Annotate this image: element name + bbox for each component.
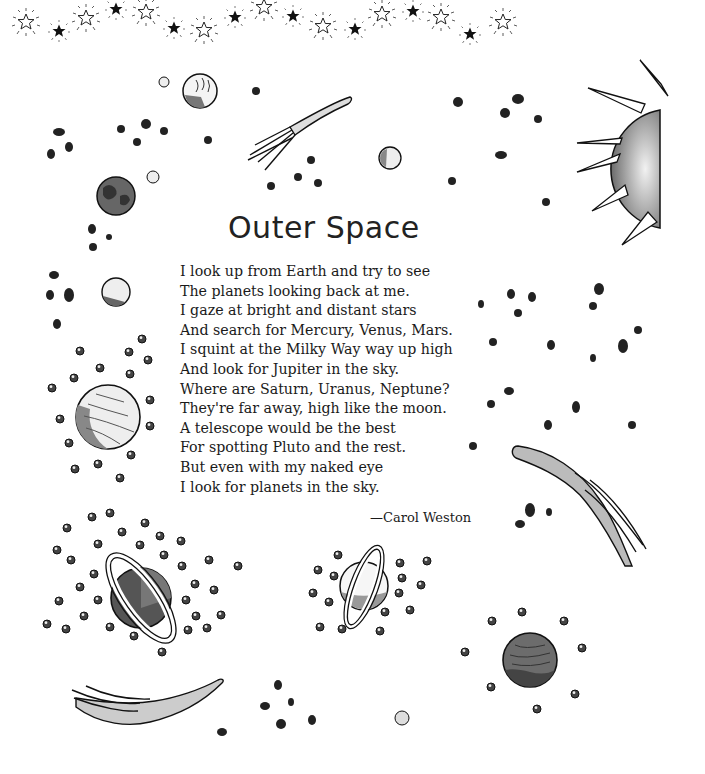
poem-line: They're far away, high like the moon. — [180, 399, 453, 419]
sun-icon — [577, 60, 668, 245]
saturn-icon — [93, 543, 188, 654]
poem-line: I squint at the Milky Way way up high — [180, 340, 453, 360]
poem-line: And look for Jupiter in the sky. — [180, 360, 453, 380]
uranus-icon — [336, 541, 392, 633]
poem-line: And search for Mercury, Venus, Mars. — [180, 321, 453, 341]
poem-body: I look up from Earth and try to see The … — [180, 262, 453, 497]
poem-line: I look for planets in the sky. — [180, 478, 453, 498]
poem-line: A telescope would be the best — [180, 419, 453, 439]
poem-line: But even with my naked eye — [180, 458, 453, 478]
poem-line: The planets looking back at me. — [180, 282, 453, 302]
poem-line: I look up from Earth and try to see — [180, 262, 453, 282]
comet-bottom-icon — [72, 679, 223, 724]
poem-author: —Carol Weston — [370, 510, 471, 525]
jupiter-icon — [76, 385, 140, 449]
poem-line: I gaze at bright and distant stars — [180, 301, 453, 321]
poem-title: Outer Space — [228, 210, 420, 245]
comet-icon — [248, 97, 351, 170]
mars-icon — [503, 633, 557, 687]
poem-line: For spotting Pluto and the rest. — [180, 438, 453, 458]
poem-line: Where are Saturn, Uranus, Neptune? — [180, 380, 453, 400]
star-border — [12, 0, 517, 45]
earth-icon — [97, 177, 135, 215]
